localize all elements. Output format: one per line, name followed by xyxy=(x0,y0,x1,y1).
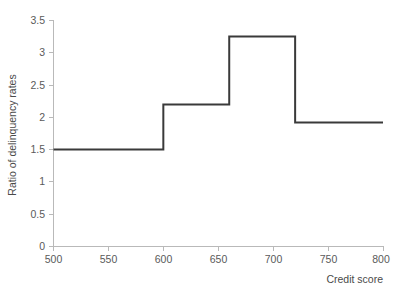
y-tick-label: 3 xyxy=(39,46,45,58)
x-tick-label: 500 xyxy=(45,253,63,265)
y-tick-label: 2 xyxy=(39,111,45,123)
y-tick-labels: 0 0.5 1 1.5 2 2.5 3 3.5 xyxy=(30,14,45,252)
x-tick-label: 800 xyxy=(372,253,390,265)
y-tick-label: 2.5 xyxy=(30,79,45,91)
x-tick-label: 700 xyxy=(265,253,283,265)
y-tick-label: 1.5 xyxy=(30,143,45,155)
y-tick-label: 0 xyxy=(39,240,45,252)
step-line-series xyxy=(54,37,384,150)
y-axis-title: Ratio of delinquency rates xyxy=(6,74,18,195)
chart-canvas: 0 0.5 1 1.5 2 2.5 3 3.5 500 550 600 650 … xyxy=(0,0,403,293)
y-tick-marks xyxy=(49,20,53,246)
chart-figure: 0 0.5 1 1.5 2 2.5 3 3.5 500 550 600 650 … xyxy=(0,0,403,293)
x-tick-label: 750 xyxy=(320,253,338,265)
x-tick-label: 550 xyxy=(100,253,118,265)
y-tick-label: 1 xyxy=(39,175,45,187)
x-tick-label: 650 xyxy=(210,253,228,265)
y-tick-label: 0.5 xyxy=(30,208,45,220)
y-tick-label: 3.5 xyxy=(30,14,45,26)
x-axis-title: Credit score xyxy=(326,273,383,285)
x-tick-labels: 500 550 600 650 700 750 800 xyxy=(45,253,390,265)
x-tick-label: 600 xyxy=(155,253,173,265)
